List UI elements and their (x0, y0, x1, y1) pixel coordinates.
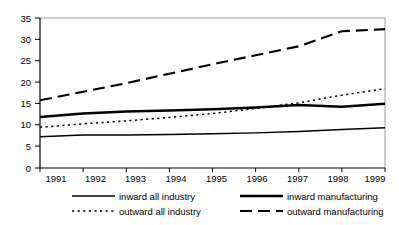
y-tick-label: 25 (20, 55, 31, 66)
chart-canvas: 35 30 25 20 15 10 5 0 (0, 0, 399, 225)
x-tick-label: 1998 (327, 173, 348, 184)
x-axis-tick-labels: 1991 1992 1993 1994 1995 1996 1997 1998 … (45, 173, 385, 184)
y-tick-label: 35 (20, 13, 31, 24)
legend-label: outward all industry (119, 206, 201, 217)
line-chart: 35 30 25 20 15 10 5 0 (0, 0, 399, 225)
y-tick-label: 20 (20, 77, 31, 88)
x-tick-label: 1993 (125, 173, 146, 184)
legend-label: outward manufacturing (287, 206, 384, 217)
x-tick-label: 1996 (246, 173, 267, 184)
x-tick-label: 1995 (206, 173, 227, 184)
y-tick-label: 30 (20, 34, 31, 45)
x-tick-label: 1991 (45, 173, 66, 184)
x-tick-label: 1994 (165, 173, 186, 184)
x-tick-label: 1992 (85, 173, 106, 184)
legend-label: inward all industry (119, 191, 195, 202)
legend-label: inward manufacturing (287, 191, 378, 202)
x-tick-label: 1997 (287, 173, 308, 184)
x-tick-label: 1999 (364, 173, 385, 184)
y-tick-label: 5 (26, 141, 31, 152)
y-tick-label: 10 (20, 119, 31, 130)
y-tick-label: 15 (20, 98, 31, 109)
y-tick-label: 0 (26, 163, 31, 174)
